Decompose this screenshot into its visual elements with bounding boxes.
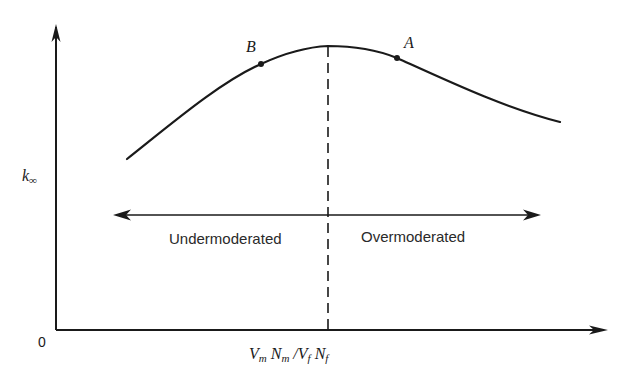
k-infinity-diagram — [0, 0, 629, 377]
point-a-label: A — [404, 35, 414, 51]
point-b-label: B — [246, 39, 256, 55]
k-infinity-curve — [127, 46, 560, 159]
x-axis-label: Vm Nm /Vf Nf — [249, 346, 328, 364]
x-axis-label-v-m: Vm — [249, 345, 267, 362]
undermoderated-label: Undermoderated — [169, 231, 282, 246]
overmoderated-label: Overmoderated — [361, 229, 465, 244]
y-axis-label: k∞ — [22, 168, 37, 186]
y-axis-label-subscript: ∞ — [29, 174, 37, 186]
point-b-marker — [258, 61, 264, 67]
moderation-double-arrow — [113, 210, 541, 221]
x-axis-label-v-f: /Vf — [289, 345, 310, 362]
y-axis — [52, 24, 61, 330]
origin-label: 0 — [38, 335, 46, 349]
x-axis-label-n-m: Nm — [267, 345, 290, 362]
x-axis-label-n-f: Nf — [311, 345, 329, 362]
point-a-marker — [394, 55, 400, 61]
x-axis — [56, 326, 608, 335]
